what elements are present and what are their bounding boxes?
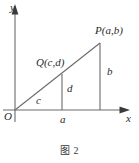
segment-a-label: a [60,114,66,125]
figure-caption: 图 2 [0,142,139,157]
origin-label: O [4,111,12,122]
ray-op-line [15,43,100,110]
segment-d-label: d [67,83,73,94]
figure-container: y x O P(a,b) Q(c,d) a b c d 图 2 [0,0,139,163]
y-axis-label: y [10,2,15,13]
point-q-label: Q(c,d) [36,57,64,68]
x-axis-label: x [126,113,131,124]
segment-c-label: c [36,95,41,106]
segment-b-label: b [107,66,113,77]
point-p-label: P(a,b) [95,25,123,36]
